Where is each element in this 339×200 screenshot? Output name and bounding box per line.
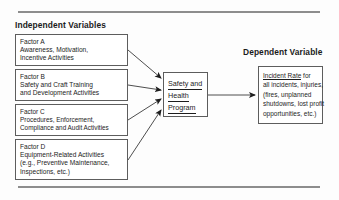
program-line3: Program [168, 102, 196, 114]
program-line1: Safety and [168, 78, 202, 90]
factor-c-box: Factor C Procedures, Enforcement, Compli… [15, 104, 128, 136]
outcome-line3: (fires, unplanned [263, 90, 322, 99]
factor-a-box: Factor A Awareness, Motivation, Incentiv… [15, 34, 128, 66]
factor-c-line3: Compliance and Audit Activities [20, 124, 127, 132]
factor-a-title: Factor A [20, 38, 127, 46]
top-divider-rule [18, 11, 320, 13]
factor-b-title: Factor B [20, 73, 127, 81]
factor-a-text: Factor A Awareness, Motivation, Incentiv… [16, 35, 127, 63]
arrow-factor-c-to-program [128, 99, 161, 120]
factor-a-line3: Incentive Activities [20, 54, 127, 62]
factor-b-line3: and Development Activities [20, 89, 127, 97]
factor-c-line2: Procedures, Enforcement, [20, 116, 127, 124]
figure-canvas: Independent Variables Dependent Variable… [0, 0, 339, 200]
factor-b-line2: Safety and Craft Training [20, 81, 127, 89]
outcome-line5: opportunities, etc.) [263, 109, 322, 118]
arrow-factor-a-to-program [128, 50, 161, 78]
factor-d-box: Factor D Equipment-Related Activities (e… [15, 139, 128, 180]
program-line2: Health [168, 90, 189, 102]
factor-d-line3: (e.g., Preventive Maintenance, [20, 159, 127, 167]
outcome-line1-rest: for [301, 72, 310, 79]
outcome-line1: Incident Rate for [263, 71, 322, 80]
incident-rate-box: Incident Rate for all incidents, injurie… [258, 66, 323, 124]
outcome-text: Incident Rate for all incidents, injurie… [259, 67, 322, 118]
outcome-line2: all incidents, injuries, [263, 80, 322, 89]
dependent-variable-header: Dependent Variable [243, 47, 323, 57]
outcome-line4: shutdowns, lost profit [263, 99, 322, 108]
factor-c-title: Factor C [20, 108, 127, 116]
arrow-factor-b-to-program [128, 85, 161, 90]
factor-a-line2: Awareness, Motivation, [20, 46, 127, 54]
factor-b-box: Factor B Safety and Craft Training and D… [15, 69, 128, 101]
factor-d-line4: Inspections, etc.) [20, 168, 127, 176]
bottom-divider-rule [18, 186, 320, 188]
independent-variables-header: Independent Variables [15, 20, 106, 30]
safety-health-program-box: Safety and Health Program [163, 72, 208, 117]
incident-rate-emphasis: Incident Rate [263, 72, 301, 80]
factor-d-line2: Equipment-Related Activities [20, 151, 127, 159]
arrow-factor-d-to-program [128, 110, 161, 160]
factor-d-title: Factor D [20, 143, 127, 151]
program-text: Safety and Health Program [164, 73, 207, 114]
factor-d-text: Factor D Equipment-Related Activities (e… [16, 140, 127, 176]
factor-c-text: Factor C Procedures, Enforcement, Compli… [16, 105, 127, 133]
factor-b-text: Factor B Safety and Craft Training and D… [16, 70, 127, 98]
